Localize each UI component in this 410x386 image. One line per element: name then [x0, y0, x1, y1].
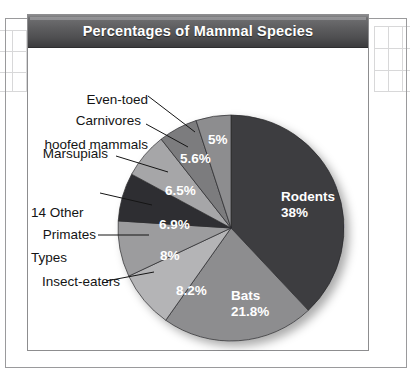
- slice-value-marsupials: 6.5%: [165, 183, 196, 198]
- chart-title: Percentages of Mammal Species: [83, 23, 314, 39]
- label-marsupials-text: Marsupials: [43, 146, 108, 161]
- leader-even-toed: [148, 96, 195, 132]
- slice-value-14-other-types: 6.9%: [159, 217, 190, 232]
- label-other-line2: Types: [31, 250, 109, 265]
- label-carnivores: Carnivores: [36, 113, 141, 128]
- slice-value-primates: 8%: [160, 248, 180, 263]
- label-primates-text: Primates: [43, 227, 96, 242]
- slice-value-insect-eaters: 8.2%: [176, 283, 207, 298]
- label-other-line1: 14 Other: [31, 205, 109, 220]
- label-marsupials: Marsupials: [28, 146, 108, 161]
- label-carnivores-text: Carnivores: [76, 113, 141, 128]
- label-insect-eaters-text: Insect-eaters: [42, 274, 120, 289]
- slice-value-carnivores: 5.6%: [180, 151, 211, 166]
- slice-label-rodents: Rodents: [281, 189, 335, 204]
- slice-value-even-toed-hoofed-mammals: 5%: [208, 132, 228, 147]
- chart-page: Percentages of Mammal Species: [0, 0, 410, 386]
- label-primates: Primates: [28, 227, 96, 242]
- slice-value-rodents: 38%: [281, 205, 308, 220]
- label-even-toed-line1: Even-toed: [36, 92, 148, 107]
- title-bar-highlight: [30, 17, 366, 20]
- chart-panel: Percentages of Mammal Species: [27, 14, 369, 351]
- slice-value-bats: 21.8%: [231, 304, 269, 319]
- chart-title-bar: Percentages of Mammal Species: [28, 15, 368, 48]
- label-insect-eaters: Insect-eaters: [28, 274, 120, 289]
- slice-label-bats: Bats: [231, 288, 260, 303]
